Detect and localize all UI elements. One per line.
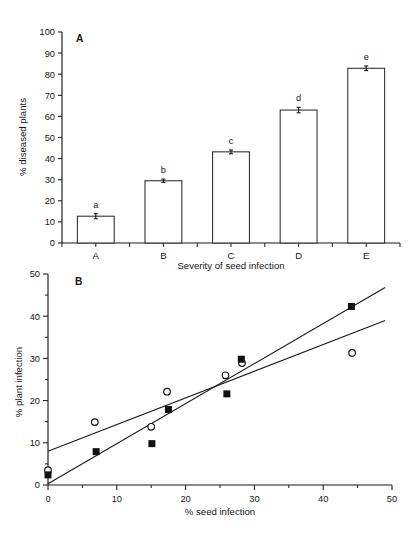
panel-a-category-label: A (93, 250, 100, 261)
panel-b-open-circle-point (91, 419, 98, 426)
panel-a-svg: 0102030405060708090100 abcde ABCDE A Sev… (0, 0, 411, 285)
panel-b-filled-square-point (165, 406, 172, 413)
panel-b-filled-square-point (238, 356, 245, 363)
panel-a-bar (280, 110, 317, 243)
panel-b-y-axis-title: % plant infection (13, 347, 24, 417)
panel-a-y-tick-label: 40 (45, 154, 55, 164)
panel-b-open-circle-point (164, 388, 171, 395)
panel-a-bar (213, 152, 250, 243)
panel-a-category-label: B (160, 250, 166, 261)
panel-b-y-tick-labels: 01020304050 (30, 270, 40, 490)
panel-b-label: B (75, 276, 82, 287)
panel-a-y-tick-label: 70 (45, 91, 55, 101)
panel-a-y-tick-label: 100 (39, 27, 55, 37)
panel-b-y-tick-label: 30 (30, 354, 40, 364)
panel-a-y-tick-label: 30 (45, 175, 55, 185)
panel-b-svg: 01020304050 01020304050 B % seed infecti… (0, 270, 411, 542)
panel-a-bars (77, 68, 384, 243)
panel-b-x-tick-label: 0 (45, 494, 50, 504)
figure-container: 0102030405060708090100 abcde ABCDE A Sev… (0, 0, 411, 542)
panel-a-y-tick-label: 10 (45, 217, 55, 227)
panel-b-y-tick-label: 50 (30, 270, 40, 279)
panel-b-x-tick-label: 30 (249, 494, 259, 504)
panel-a-y-tick-label: 0 (50, 238, 55, 248)
panel-b-filled-square-point (93, 448, 100, 455)
panel-b-filled-square-point (148, 440, 155, 447)
panel-b-x-tick-labels: 01020304050 (45, 494, 397, 504)
panel-b-filled-square-point (45, 471, 52, 478)
panel-b-x-axis-title: % seed infection (185, 506, 255, 517)
panel-b-filled-square-point (348, 303, 355, 310)
panel-a-bar-chart: 0102030405060708090100 abcde ABCDE A Sev… (0, 0, 411, 285)
panel-a-label: A (76, 33, 84, 44)
panel-a-significance-label: b (161, 165, 166, 175)
panel-a-significance-label: c (229, 136, 234, 146)
panel-a-category-label: D (295, 250, 302, 261)
panel-a-significance-label: d (296, 93, 301, 103)
panel-a-y-tick-label: 50 (45, 133, 55, 143)
panel-b-x-tick-label: 10 (112, 494, 122, 504)
panel-b-filled-square-point (223, 390, 230, 397)
panel-b-scatter-chart: 01020304050 01020304050 B % seed infecti… (0, 270, 411, 542)
panel-a-y-tick-label: 20 (45, 196, 55, 206)
panel-b-open-circle-point (349, 350, 356, 357)
panel-b-data-points (45, 303, 356, 478)
panel-a-category-label: E (363, 250, 369, 261)
panel-a-y-tick-label: 60 (45, 112, 55, 122)
panel-b-x-tick-label: 40 (318, 494, 328, 504)
panel-a-y-tick-label: 80 (45, 70, 55, 80)
panel-b-y-tick-label: 20 (30, 396, 40, 406)
panel-b-open-circle-point (148, 423, 155, 430)
panel-a-y-tick-labels: 0102030405060708090100 (39, 27, 55, 248)
panel-a-x-ticks (62, 243, 400, 247)
panel-b-x-ticks (48, 485, 392, 490)
panel-b-y-tick-label: 40 (30, 312, 40, 322)
panel-a-y-ticks (58, 32, 62, 243)
panel-b-x-tick-label: 20 (180, 494, 190, 504)
panel-a-y-axis-title: % diseased plants (17, 98, 28, 176)
panel-a-y-tick-label: 90 (45, 49, 55, 59)
panel-b-open-circle-point (222, 372, 229, 379)
panel-a-bar (77, 216, 114, 243)
panel-b-y-tick-label: 0 (35, 480, 40, 490)
panel-b-y-ticks (43, 274, 48, 485)
panel-a-significance-label: a (93, 200, 99, 210)
panel-a-bar (348, 68, 385, 243)
panel-b-x-tick-label: 50 (387, 494, 397, 504)
panel-a-significance-label: e (364, 52, 369, 62)
panel-b-y-tick-label: 10 (30, 438, 40, 448)
panel-a-bar (145, 181, 182, 243)
